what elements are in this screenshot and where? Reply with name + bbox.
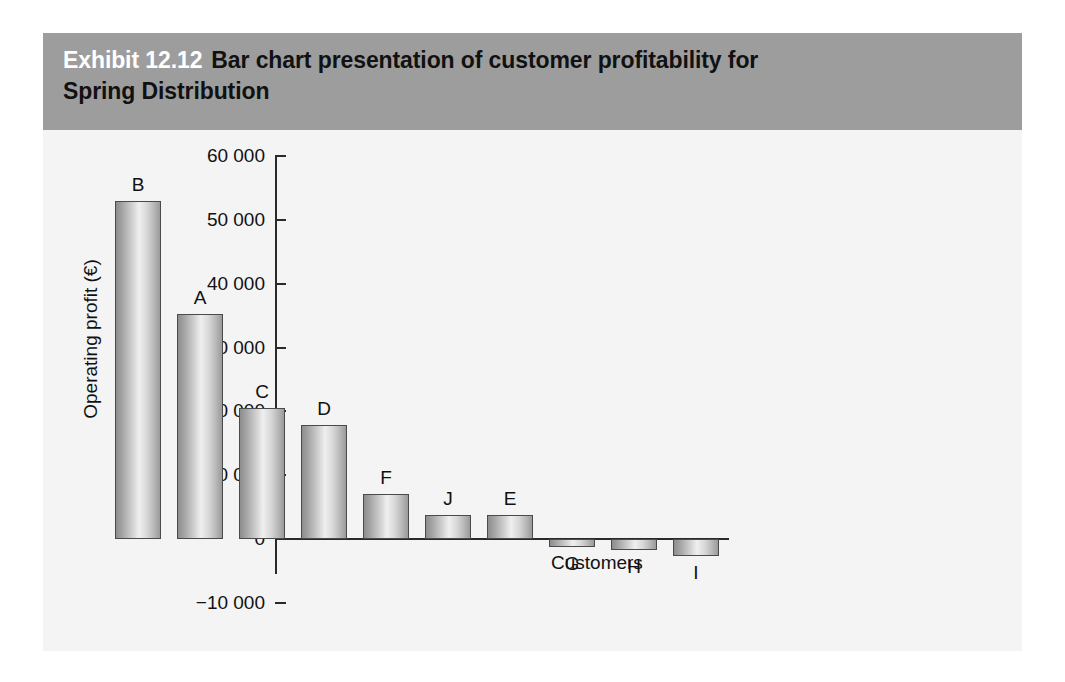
bar-g	[549, 539, 595, 547]
bar-b	[115, 201, 161, 539]
y-axis-tick-label: 50 000	[207, 209, 265, 231]
bar-label-d: D	[301, 398, 347, 420]
exhibit-title-line-2: Spring Distribution	[63, 76, 1002, 107]
bar-f	[363, 494, 409, 539]
bar-label-j: J	[425, 488, 471, 510]
bar-label-f: F	[363, 467, 409, 489]
bar-d	[301, 425, 347, 539]
y-axis-tick-label: −10 000	[196, 592, 265, 614]
bar-label-e: E	[487, 488, 533, 510]
exhibit-title-text-1: Bar chart presentation of customer profi…	[211, 47, 758, 73]
bar-label-i: I	[673, 562, 719, 584]
chart-panel: Operating profit (€) 60 00050 00040 0003…	[43, 130, 1022, 651]
bar-h	[611, 539, 657, 550]
bar-c	[239, 408, 285, 539]
y-axis-tick-label: 60 000	[207, 145, 265, 167]
x-axis-title: Customers	[551, 552, 643, 574]
bar-j	[425, 515, 471, 539]
y-axis-tick	[275, 155, 286, 157]
exhibit-figure: Exhibit 12.12Bar chart presentation of c…	[43, 33, 1022, 651]
bar-a	[177, 314, 223, 539]
exhibit-number: Exhibit 12.12	[63, 47, 202, 73]
exhibit-title-band: Exhibit 12.12Bar chart presentation of c…	[43, 33, 1022, 130]
plot-area: Operating profit (€) 60 00050 00040 0003…	[43, 130, 1022, 651]
y-axis-tick	[275, 219, 286, 221]
bar-e	[487, 515, 533, 539]
bar-label-b: B	[115, 174, 161, 196]
y-axis-tick	[275, 283, 286, 285]
bar-i	[673, 539, 719, 556]
y-axis-tick	[275, 602, 286, 604]
bar-label-a: A	[177, 287, 223, 309]
y-axis-tick	[275, 347, 286, 349]
bar-label-c: C	[239, 381, 285, 403]
exhibit-title-line-1: Exhibit 12.12Bar chart presentation of c…	[63, 45, 1002, 76]
